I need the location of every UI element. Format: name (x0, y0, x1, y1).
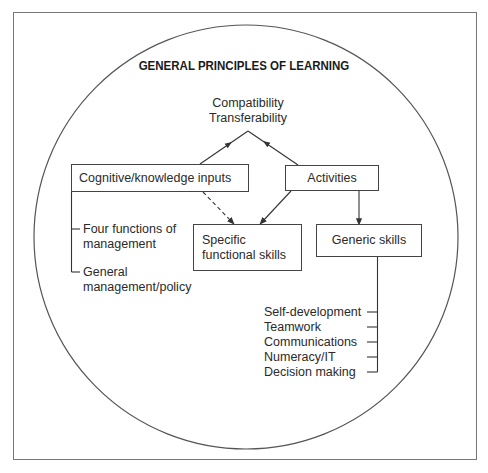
node-activities-label: Activities (307, 171, 356, 186)
diagram-title: GENERAL PRINCIPLES OF LEARNING (20, 59, 469, 73)
outcome-transferability: Transferability (200, 111, 296, 126)
generic-skills-bracket (367, 256, 378, 372)
node-generic-skills: Generic skills (316, 224, 422, 257)
edge-activities-to-specific (262, 191, 291, 222)
branch-line1: General (83, 265, 191, 280)
branch-line2: management (83, 237, 176, 252)
generic-skill-item: Numeracy/IT (264, 350, 361, 365)
generic-skills-list: Self-development Teamwork Communications… (264, 305, 361, 380)
branch-line2: management/policy (83, 280, 191, 295)
node-generic-label: Generic skills (332, 233, 406, 248)
cognitive-branch-four-functions: Four functions of management (83, 222, 176, 252)
cognitive-branch-bracket (72, 191, 81, 272)
node-specific-line1: Specific (202, 233, 286, 248)
node-cognitive-inputs: Cognitive/knowledge inputs (71, 164, 249, 192)
node-specific-line2: functional skills (202, 248, 286, 263)
outcomes-label: Compatibility Transferability (200, 96, 296, 126)
cognitive-branch-general-management: General management/policy (83, 265, 191, 295)
branch-line1: Four functions of (83, 222, 176, 237)
edge-cognitive-to-outcomes (200, 131, 248, 164)
edge-activities-to-outcomes (248, 131, 298, 165)
outcome-compatibility: Compatibility (200, 96, 296, 111)
edge-cognitive-to-specific (203, 192, 232, 222)
generic-skill-item: Self-development (264, 305, 361, 320)
node-cognitive-label: Cognitive/knowledge inputs (79, 171, 231, 186)
generic-skill-item: Decision making (264, 365, 361, 380)
learning-principles-diagram: GENERAL PRINCIPLES OF LEARNING Compatibi… (0, 0, 488, 473)
node-activities: Activities (285, 165, 379, 191)
generic-skill-item: Communications (264, 335, 361, 350)
generic-skill-item: Teamwork (264, 320, 361, 335)
node-specific-functional-skills: Specific functional skills (193, 224, 302, 271)
